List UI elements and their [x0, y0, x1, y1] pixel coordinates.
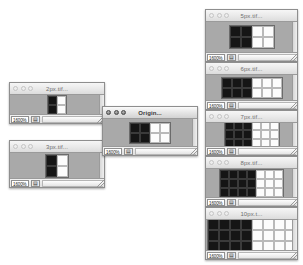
close-icon[interactable] [209, 211, 214, 216]
vertical-scrollbar[interactable] [192, 119, 197, 146]
pixel-cell [256, 179, 265, 188]
resize-handle[interactable] [189, 147, 197, 155]
zoom-icon[interactable] [224, 66, 229, 71]
window-statusbar: 1600%▤ [206, 146, 297, 155]
vertical-scrollbar[interactable] [292, 75, 297, 100]
close-icon[interactable] [209, 13, 214, 18]
image-window-win-origin[interactable]: Origin...1600%▤ [102, 106, 198, 156]
image-window-win-6px[interactable]: 6px.tif...1600%▤ [205, 62, 298, 110]
minimize-icon[interactable] [217, 66, 222, 71]
vertical-scrollbar[interactable] [292, 169, 297, 197]
resize-handle[interactable] [289, 147, 297, 155]
zoom-icon[interactable] [121, 110, 126, 115]
pixel-cell [265, 170, 274, 179]
close-icon[interactable] [209, 160, 214, 165]
image-window-win-10px[interactable]: 10px.t...1600%▤ [205, 207, 298, 260]
traffic-lights [106, 110, 126, 115]
window-titlebar[interactable]: Origin... [103, 107, 197, 119]
pixel-cell [219, 230, 230, 241]
window-titlebar[interactable]: 7px.tif... [206, 111, 297, 123]
zoom-level-field[interactable]: 1600% [11, 180, 29, 187]
window-titlebar[interactable]: 10px.t... [206, 208, 297, 220]
pixel-cell [220, 179, 229, 188]
image-canvas[interactable] [206, 220, 297, 250]
zoom-icon[interactable] [224, 160, 229, 165]
close-icon[interactable] [13, 86, 18, 91]
zoom-level-field[interactable]: 1600% [207, 102, 225, 109]
minimize-icon[interactable] [21, 144, 26, 149]
zoom-level-field[interactable]: 1600% [104, 148, 122, 155]
resize-handle[interactable] [289, 251, 297, 259]
close-icon[interactable] [209, 114, 214, 119]
minimize-icon[interactable] [217, 114, 222, 119]
minimize-icon[interactable] [217, 160, 222, 165]
window-titlebar[interactable]: 2px.tif... [10, 83, 104, 95]
vertical-scrollbar[interactable] [292, 123, 297, 146]
pixel-cell [57, 166, 68, 177]
resize-handle[interactable] [289, 101, 297, 109]
image-window-win-8px[interactable]: 8px.tif...1600%▤ [205, 156, 298, 207]
close-icon[interactable] [13, 144, 18, 149]
pixel-cell [238, 170, 247, 179]
vertical-scrollbar[interactable] [292, 22, 297, 52]
document-size-icon[interactable]: ▤ [227, 199, 236, 206]
zoom-level-field[interactable]: 1600% [207, 199, 225, 206]
zoom-level-field[interactable]: 1600% [207, 148, 225, 155]
document-size-icon[interactable]: ▤ [31, 116, 40, 123]
pixel-cell [219, 220, 230, 230]
zoom-level-field[interactable]: 1600% [207, 252, 225, 259]
document-size-icon[interactable]: ▤ [227, 148, 236, 155]
close-icon[interactable] [106, 110, 111, 115]
zoom-icon[interactable] [224, 13, 229, 18]
window-titlebar[interactable]: 6px.tif... [206, 63, 297, 75]
minimize-icon[interactable] [21, 86, 26, 91]
image-canvas[interactable] [206, 123, 297, 146]
document-size-icon[interactable]: ▤ [227, 102, 236, 109]
pixel-cell [252, 230, 263, 241]
resize-handle[interactable] [289, 53, 297, 61]
pixel-grid-white [57, 96, 66, 114]
zoom-icon[interactable] [28, 86, 33, 91]
image-canvas[interactable] [206, 22, 297, 52]
image-canvas[interactable] [206, 75, 297, 100]
close-icon[interactable] [209, 66, 214, 71]
pixel-grid-black [208, 220, 252, 250]
image-window-win-5px[interactable]: 5px.tif...1600%▤ [205, 9, 298, 62]
pixel-cell [234, 130, 243, 139]
zoom-level-field[interactable]: 1600% [11, 116, 29, 123]
image-window-win-2px[interactable]: 2px.tif...1600%▤ [9, 82, 105, 124]
document-size-icon[interactable]: ▤ [124, 148, 133, 155]
minimize-icon[interactable] [217, 13, 222, 18]
pixel-cell [261, 123, 270, 130]
image-window-win-7px[interactable]: 7px.tif...1600%▤ [205, 110, 298, 156]
image-canvas[interactable] [10, 95, 104, 114]
pixel-cell [57, 105, 66, 114]
traffic-lights [209, 211, 229, 216]
image-canvas[interactable] [10, 153, 104, 178]
pixel-cell [274, 241, 285, 251]
window-titlebar[interactable]: 5px.tif... [206, 10, 297, 22]
pixel-cell [242, 88, 252, 98]
pixel-cell [243, 130, 252, 139]
vertical-scrollbar[interactable] [99, 153, 104, 178]
zoom-level-field[interactable]: 1600% [207, 54, 225, 61]
minimize-icon[interactable] [217, 211, 222, 216]
document-size-icon[interactable]: ▤ [227, 54, 236, 61]
document-size-icon[interactable]: ▤ [227, 252, 236, 259]
document-size-icon[interactable]: ▤ [31, 180, 40, 187]
zoom-icon[interactable] [28, 144, 33, 149]
image-canvas[interactable] [103, 119, 197, 146]
zoom-icon[interactable] [224, 114, 229, 119]
vertical-scrollbar[interactable] [292, 220, 297, 250]
zoom-icon[interactable] [224, 211, 229, 216]
image-window-win-3px[interactable]: 3px.tif...1600%▤ [9, 140, 105, 188]
window-titlebar[interactable]: 8px.tif... [206, 157, 297, 169]
pixel-cell [256, 188, 265, 197]
pixel-cell [208, 230, 219, 241]
window-titlebar[interactable]: 3px.tif... [10, 141, 104, 153]
resize-handle[interactable] [289, 198, 297, 206]
pixel-cell [252, 88, 262, 98]
resize-handle[interactable] [96, 179, 104, 187]
minimize-icon[interactable] [114, 110, 119, 115]
image-canvas[interactable] [206, 169, 297, 197]
